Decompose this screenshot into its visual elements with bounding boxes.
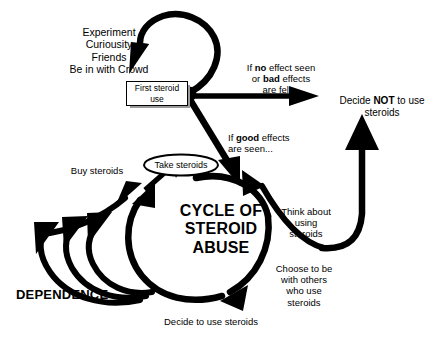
negative-line2-bold: bad [263,73,280,84]
cycle-title-line2: STEROID [185,220,258,237]
positive-line1-pre: If [228,132,236,143]
positive-line1-post: effects [259,132,289,143]
cycle-title-line1: CYCLE OF [180,202,263,219]
first-steroid-use-box: First steroid use [126,81,188,106]
cycle-title: CYCLE OFSTEROIDABUSE [163,202,279,257]
choose-to-be-with-others-label: Choose to be with others who use steroid… [265,263,343,308]
negative-line3: are felt... [263,84,300,95]
buy-steroids-label: Buy steroids [62,165,132,176]
negative-outcome-label: If no effect seenor bad effectsare felt.… [232,62,330,96]
negative-line1-pre: If [247,62,255,73]
steroid-abuse-cycle-diagram: Experiment Curiousity Friends Be in with… [0,0,436,344]
negative-line2-post: effects [280,73,310,84]
cycle-title-line3: ABUSE [192,239,249,256]
decide-to-use-steroids-label: Decide to use steroids [146,316,276,327]
negative-line1-post: effect seen [266,62,315,73]
dependence-label: DEPENDENCE [16,287,128,302]
decide-not-line1-bold: NOT [373,95,394,106]
negative-line2-pre: or [252,73,263,84]
decide-not-to-use-label: Decide NOT to usesteroids [330,95,434,119]
decide-not-line1-post: to use [394,95,424,106]
positive-outcome-label: If good effectsare seen... [228,132,318,154]
decide-not-line1-pre: Decide [339,95,373,106]
negative-line1-bold: no [255,62,267,73]
positive-line2: are seen... [228,143,273,154]
positive-line1-bold: good [236,132,259,143]
take-steroids-label: Take steroids [145,157,217,173]
think-about-using-steroids-label: Think about using steroids [268,206,344,240]
entry-reasons-label: Experiment Curiousity Friends Be in with… [38,26,180,76]
decide-not-line2: steroids [364,107,399,118]
